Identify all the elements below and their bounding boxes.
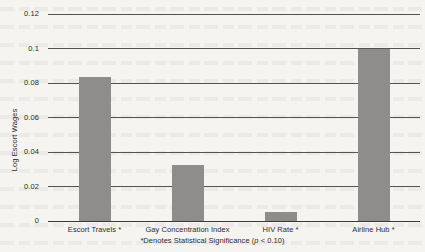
- y-axis-tick-label: 0.06: [0, 113, 39, 122]
- plot-area: 00.020.040.060.080.10.12: [48, 14, 420, 221]
- bar: [265, 212, 297, 221]
- y-axis-tick-label: 0.1: [0, 44, 39, 53]
- chart-footnote: *Denotes Statistical Significance (p < 0…: [0, 236, 425, 245]
- bar: [172, 165, 204, 221]
- gridline: [48, 14, 420, 15]
- y-axis-tick-label: 0.08: [0, 78, 39, 87]
- y-axis-tick-label: 0: [0, 216, 39, 225]
- bar-chart: Log Escort Wages 00.020.040.060.080.10.1…: [0, 0, 425, 252]
- y-axis-title: Log Escort Wages: [8, 90, 20, 190]
- bar: [358, 49, 390, 222]
- footnote-suffix: < 0.10): [259, 236, 285, 245]
- bar: [79, 77, 111, 221]
- y-axis-tick-label: 0.02: [0, 182, 39, 191]
- y-axis-tick-label: 0.04: [0, 147, 39, 156]
- footnote-prefix: *Denotes Statistical Significance (: [140, 236, 254, 245]
- x-axis-tick-label: Airline Hub *: [284, 225, 425, 234]
- y-axis-tick-label: 0.12: [0, 9, 39, 18]
